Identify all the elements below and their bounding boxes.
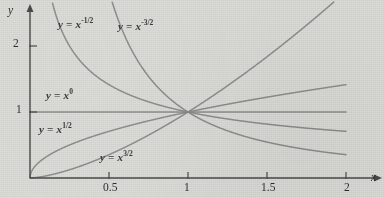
x-tick-label-0point5: 0.5 — [103, 181, 117, 193]
x-tick-label-2: 2 — [344, 181, 350, 193]
y-tick-label-1: 1 — [16, 103, 22, 115]
curve-label-x-half: y = x1/2 — [39, 121, 72, 135]
curve-label-x-neg-three-halves: y = x-3/2 — [118, 18, 153, 32]
y-tick-label-2: 2 — [13, 37, 19, 49]
curve-label-x-neg-half: y = x-1/2 — [58, 16, 93, 30]
x-tick-label-1point5: 1.5 — [261, 181, 275, 193]
x-axis-label: x — [371, 171, 376, 183]
y-axis-arrowhead — [27, 4, 34, 12]
x-tick-label-1: 1 — [184, 181, 190, 193]
y-axis-label: y — [8, 4, 13, 16]
curve-y-x-1-2 — [30, 85, 346, 178]
curve-label-x-zero: y = x0 — [46, 87, 73, 101]
curve-label-x-three-halves: y = x3/2 — [100, 149, 133, 163]
axes-group — [27, 4, 383, 182]
power-functions-chart: y x 2 1 0.5 1 1.5 2 y = x-1/2 y = x-3/2 … — [0, 0, 384, 198]
